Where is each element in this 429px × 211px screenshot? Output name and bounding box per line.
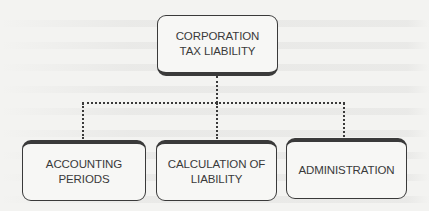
connector-to-calculation-of-liability	[216, 103, 218, 139]
child-node-label-line2: LIABILITY	[168, 172, 265, 187]
child-node-label-line1: ADMINISTRATION	[298, 163, 394, 178]
root-node-corporation-tax-liability: CORPORATION TAX LIABILITY	[157, 15, 278, 76]
child-node-accounting-periods: ACCOUNTING PERIODS	[22, 140, 146, 201]
child-node-calculation-of-liability: CALCULATION OF LIABILITY	[156, 140, 277, 201]
child-node-administration: ADMINISTRATION	[286, 138, 407, 199]
root-node-label-line1: CORPORATION	[176, 29, 260, 44]
root-node-label-line2: TAX LIABILITY	[176, 44, 260, 59]
connector-root-down	[216, 76, 218, 103]
connector-horizontal-bar	[82, 102, 345, 104]
connector-to-accounting-periods	[82, 103, 84, 139]
child-node-label-line1: CALCULATION OF	[168, 157, 265, 172]
background-bleed	[0, 86, 429, 93]
background-bleed	[0, 108, 429, 115]
background-bleed	[0, 130, 429, 137]
connector-to-administration	[343, 103, 345, 137]
child-node-label-line2: PERIODS	[46, 172, 122, 187]
child-node-label-line1: ACCOUNTING	[46, 157, 122, 172]
